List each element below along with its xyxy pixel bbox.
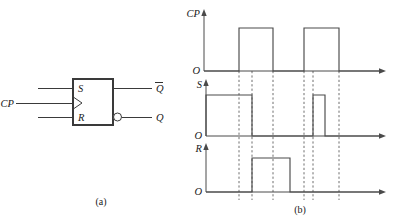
r-origin-label: O (194, 186, 202, 197)
s-origin-label: O (194, 130, 202, 141)
cp-input-label: CP (1, 98, 15, 109)
clock-triangle-icon (74, 98, 82, 109)
s-waveform (206, 95, 380, 136)
output-label-q: Q (156, 112, 164, 123)
box-label-s: S (78, 83, 84, 94)
cp-waveform (204, 28, 380, 71)
panel-b-timing: CP O S O R O (187, 8, 386, 216)
trace-s: S O (194, 79, 386, 141)
trace-r: R O (194, 143, 386, 197)
figure-root: CP S R Q Q (a) (0, 0, 410, 223)
cp-x-axis-arrow-icon (379, 68, 386, 73)
inversion-bubble-icon (114, 113, 122, 121)
r-trace-label: R (195, 143, 203, 154)
s-trace-label: S (197, 79, 203, 90)
trace-cp: CP O (187, 8, 386, 76)
cp-trace-label: CP (187, 8, 201, 19)
cp-y-axis-arrow-icon (201, 9, 206, 16)
panel-a-symbol: CP S R Q Q (a) (1, 79, 164, 208)
caption-panel-b: (b) (294, 204, 306, 216)
r-x-axis-arrow-icon (379, 189, 386, 194)
figure-svg: CP S R Q Q (a) (0, 0, 410, 223)
r-y-axis-arrow-icon (203, 143, 208, 150)
cp-origin-label: O (192, 65, 200, 76)
s-y-axis-arrow-icon (203, 79, 208, 86)
output-label-qbar: Q (156, 83, 164, 94)
box-label-r: R (77, 112, 85, 123)
r-waveform (206, 158, 380, 192)
caption-panel-a: (a) (95, 196, 106, 208)
s-x-axis-arrow-icon (379, 133, 386, 138)
